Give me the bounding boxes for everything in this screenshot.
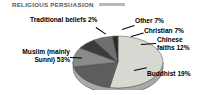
- chart-header: RELIGIOUS PERSUASION: [12, 1, 125, 8]
- slice-label-muslim: Muslim (mainly Sunni) 53%: [2, 48, 70, 63]
- slice-label-chinese-faiths: Chinese faiths 12%: [157, 36, 213, 51]
- slice-label-muslim-line1: Muslim (mainly: [2, 48, 70, 56]
- chart-figure: RELIGIOUS PERSUASION Traditional beliefs…: [0, 0, 214, 95]
- title-rule-decoration: [99, 3, 125, 7]
- slice-label-chinese-faiths-line1: Chinese: [157, 36, 213, 44]
- slice-label-buddhist: Buddhist 19%: [147, 70, 191, 78]
- slice-label-christian: Christian 7%: [144, 27, 184, 35]
- slice-label-traditional-beliefs: Traditional beliefs 2%: [30, 16, 97, 24]
- slice-label-other: Other 7%: [135, 17, 164, 25]
- slice-label-muslim-line2: Sunni) 53%: [2, 56, 70, 64]
- page-title: RELIGIOUS PERSUASION: [12, 1, 94, 8]
- slice-label-chinese-faiths-line2: faiths 12%: [157, 44, 213, 52]
